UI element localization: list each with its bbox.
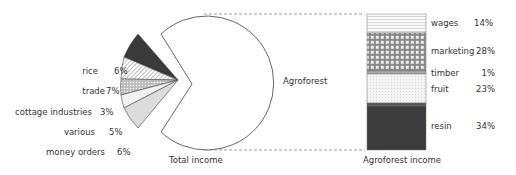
bar-timber — [367, 71, 426, 74]
value-marketing: 28% — [476, 46, 495, 56]
label-marketing: marketing — [431, 46, 474, 56]
bar-fruit — [367, 74, 426, 103]
value-various: 5% — [109, 127, 123, 137]
label-rice: rice — [82, 66, 98, 76]
value-rice: 6% — [114, 66, 128, 76]
value-wages: 14% — [474, 18, 493, 28]
value-timber: 1% — [482, 68, 496, 78]
label-wages: wages — [431, 18, 458, 28]
value-money-orders: 6% — [117, 147, 131, 157]
value-fruit: 23% — [476, 84, 495, 94]
label-trade: trade — [82, 86, 105, 96]
agroforest-label: Agroforest — [283, 76, 327, 86]
value-cottage-industries: 3% — [100, 107, 114, 117]
stacked-bar — [367, 14, 426, 150]
agroforest-income-caption: Agroforest income — [363, 155, 441, 165]
value-trade: 7% — [106, 86, 120, 96]
label-resin: resin — [431, 121, 452, 131]
bar-resin — [367, 106, 426, 150]
label-cottage-industries: cottage industries — [15, 107, 92, 117]
bar-marketing — [367, 33, 426, 71]
bar-resin-top — [367, 103, 426, 106]
label-timber: timber — [431, 68, 459, 78]
label-fruit: fruit — [431, 84, 449, 94]
value-resin: 34% — [476, 121, 495, 131]
bar-wages — [367, 14, 426, 33]
pie-agroforest-slice — [161, 16, 274, 150]
total-income-caption: Total income — [169, 155, 223, 165]
label-money-orders: money orders — [46, 147, 105, 157]
label-various: various — [64, 127, 95, 137]
